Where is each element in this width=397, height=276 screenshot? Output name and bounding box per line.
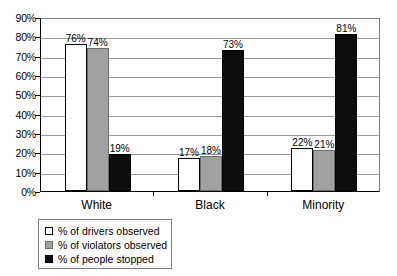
legend-item-label: % of people stopped [58,253,154,265]
y-axis-tick-label: 60% [3,71,36,81]
y-axis-tick-label: 10% [3,168,36,178]
x-axis-tick-mark [267,192,268,196]
bar: 22% [291,148,313,191]
bar-value-label: 81% [336,23,356,34]
bar-value-label: 22% [292,137,312,148]
bar-chart: 0%10%20%30%40%50%60%70%80%90% 76%74%19%1… [0,0,397,276]
bar: 74% [87,48,109,191]
bar-value-label: 19% [110,143,130,154]
bar: 21% [313,150,335,191]
x-axis-category-label: White [81,198,112,212]
y-axis: 0%10%20%30%40%50%60%70%80%90% [0,0,36,276]
x-axis: WhiteBlackMinority [40,192,380,218]
y-axis-tick-label: 80% [3,32,36,42]
legend-swatch-icon [45,255,53,263]
bar-value-label: 18% [201,145,221,156]
plot-area: 76%74%19%17%18%73%22%21%81% [40,18,380,192]
legend-item: % of drivers observed [45,224,165,238]
bar: 73% [222,50,244,191]
legend-swatch-icon [45,227,53,235]
bar: 19% [109,154,131,191]
x-axis-category-label: Black [195,198,224,212]
x-axis-tick-mark [153,192,154,196]
x-axis-category-label: Minority [302,198,344,212]
bar-value-label: 73% [223,39,243,50]
bar: 81% [335,34,357,191]
bar: 76% [65,44,87,191]
legend-item: % of violators observed [45,238,165,252]
bar-value-label: 17% [179,147,199,158]
legend-swatch-icon [45,241,53,249]
bar: 17% [178,158,200,191]
y-axis-tick-label: 0% [3,187,36,197]
y-axis-tick-label: 20% [3,148,36,158]
bar-value-label: 21% [314,139,334,150]
legend-item: % of people stopped [45,252,165,266]
y-axis-tick-label: 70% [3,52,36,62]
bar-value-label: 76% [66,33,86,44]
bar: 18% [200,156,222,191]
y-axis-tick-label: 90% [3,13,36,23]
legend-item-label: % of violators observed [58,239,167,251]
legend-item-label: % of drivers observed [58,225,160,237]
y-axis-tick-label: 40% [3,110,36,120]
bar-value-label: 74% [88,37,108,48]
chart-legend: % of drivers observed% of violators obse… [38,219,172,269]
y-axis-tick-label: 30% [3,129,36,139]
y-axis-tick-label: 50% [3,90,36,100]
